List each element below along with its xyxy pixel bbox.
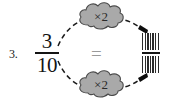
left-fraction-numerator: 3 [33, 30, 61, 52]
left-fraction-denominator: 10 [33, 54, 61, 77]
answer-fraction-bar [142, 52, 160, 54]
equivalent-fraction-problem: 3. 3 10 = ×2 ×2 [0, 0, 169, 108]
problem-number: 3. [9, 47, 18, 61]
arrowhead-bottom [138, 73, 148, 82]
left-fraction: 3 10 [33, 30, 61, 77]
multiply-by-two-label-bottom: ×2 [79, 78, 123, 91]
answer-denominator-blank[interactable] [142, 56, 159, 73]
answer-numerator-blank[interactable] [142, 33, 159, 50]
equals-sign: = [91, 44, 102, 63]
answer-blank-fraction[interactable] [142, 33, 160, 73]
multiply-by-two-label-top: ×2 [79, 10, 123, 23]
